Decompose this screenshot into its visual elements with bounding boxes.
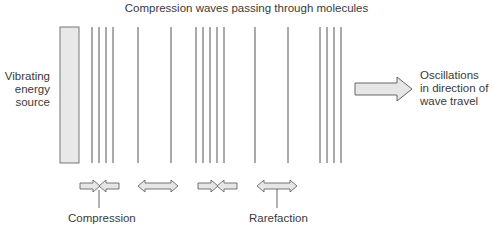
direction-label-line: wave travel: [420, 95, 493, 108]
vibrating-source-block: [60, 27, 79, 163]
direction-label-line: in direction of: [420, 82, 493, 95]
direction-arrow-icon: [355, 77, 412, 101]
rarefaction-arrow-1: [138, 180, 178, 192]
source-label-line: Vibrating: [0, 70, 50, 83]
source-label-line: source: [0, 96, 50, 109]
compression-arrows-2: [198, 180, 237, 192]
source-label: Vibrating energy source: [0, 70, 50, 109]
molecule-lines: [92, 27, 341, 163]
source-label-line: energy: [0, 83, 50, 96]
rarefaction-label: Rarefaction: [249, 212, 308, 225]
direction-label-line: Oscillations: [420, 69, 493, 82]
direction-label: Oscillations in direction of wave travel: [420, 69, 493, 108]
compression-label: Compression: [68, 212, 136, 225]
wave-diagram: [0, 0, 493, 232]
